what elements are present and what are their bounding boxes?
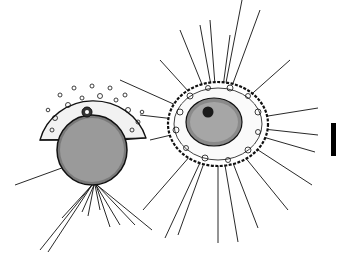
- right-specimen-nucleus: [203, 107, 214, 118]
- right-specimen: [120, 0, 318, 243]
- specimen-illustration: [0, 0, 347, 263]
- scale-bar: [331, 123, 336, 156]
- left-specimen: [15, 84, 152, 252]
